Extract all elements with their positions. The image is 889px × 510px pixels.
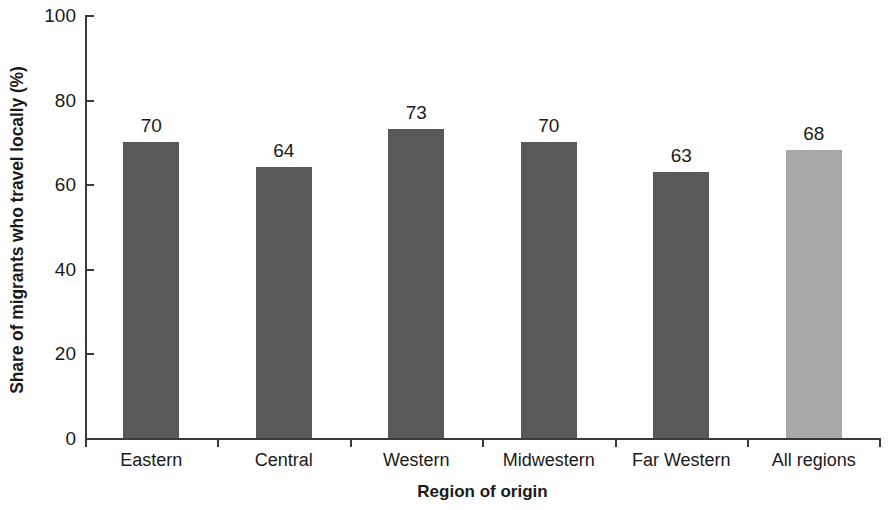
x-tick-mark-0 [85, 438, 87, 447]
y-axis-line [85, 15, 87, 439]
bar-value-label-far-western: 63 [615, 146, 748, 165]
bar-value-label-midwestern: 70 [483, 116, 616, 135]
bar-central[interactable] [256, 167, 312, 438]
x-tick-mark-6 [879, 438, 881, 447]
x-category-label-central: Central [218, 449, 351, 471]
bar-all-regions[interactable] [786, 150, 842, 438]
bar-value-label-all-regions: 68 [748, 124, 881, 143]
bar-far-western[interactable] [653, 172, 709, 438]
x-tick-mark-2 [350, 438, 352, 447]
y-axis-ticks: 100 80 60 40 20 0 [30, 0, 76, 510]
x-tick-mark-5 [747, 438, 749, 447]
x-tick-mark-3 [482, 438, 484, 447]
bar-western[interactable] [388, 129, 444, 438]
y-tick-label-80: 80 [30, 91, 76, 110]
bar-midwestern[interactable] [521, 142, 577, 438]
x-category-label-western: Western [350, 449, 483, 471]
bar-chart-figure: Share of migrants who travel locally (%)… [0, 0, 889, 510]
bar-value-label-central: 64 [218, 141, 351, 160]
y-tick-label-100: 100 [30, 6, 76, 25]
y-tick-label-60: 60 [30, 175, 76, 194]
bar-value-label-eastern: 70 [85, 116, 218, 135]
x-category-label-all-regions: All regions [748, 449, 881, 471]
x-category-label-midwestern: Midwestern [483, 449, 616, 471]
x-tick-mark-4 [615, 438, 617, 447]
x-category-label-far-western: Far Western [615, 449, 748, 471]
x-axis-title: Region of origin [85, 481, 880, 503]
x-category-label-eastern: Eastern [85, 449, 218, 471]
y-axis-title: Share of migrants who travel locally (%) [4, 10, 30, 450]
bar-eastern[interactable] [123, 142, 179, 438]
y-tick-label-0: 0 [30, 429, 76, 448]
x-tick-mark-1 [217, 438, 219, 447]
bar-value-label-western: 73 [350, 103, 483, 122]
y-tick-label-20: 20 [30, 344, 76, 363]
y-tick-label-40: 40 [30, 260, 76, 279]
